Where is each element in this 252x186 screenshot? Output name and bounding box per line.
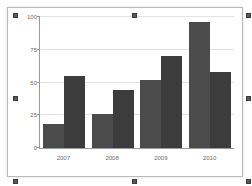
selection-handle-bottom-center[interactable] (132, 179, 137, 184)
selection-handle-top-right[interactable] (246, 13, 251, 18)
chart-plot-area: 0255075100 (39, 17, 234, 149)
bar-group (186, 17, 235, 148)
selection-handle-middle-right[interactable] (246, 96, 251, 101)
chart-object[interactable]: 0255075100 2007200820092010 (7, 7, 243, 177)
bar-2007-series1[interactable] (43, 124, 64, 148)
selection-handle-bottom-right[interactable] (246, 179, 251, 184)
bar-2008-series1[interactable] (92, 114, 113, 148)
bar-2007-series2[interactable] (64, 76, 85, 148)
y-axis-tick-label: 50 (30, 80, 37, 86)
y-axis-tick-label: 25 (30, 112, 37, 118)
bar-2008-series2[interactable] (113, 90, 134, 148)
screenshot-canvas: 0255075100 2007200820092010 (0, 0, 252, 186)
y-axis-tick-label: 0 (34, 145, 37, 151)
bar-2009-series1[interactable] (140, 80, 161, 148)
chart-bars (40, 17, 234, 148)
x-axis-label-2009: 2009 (137, 152, 186, 164)
y-axis-tick-label: 100 (27, 14, 37, 20)
selection-handle-top-left[interactable] (13, 13, 18, 18)
bar-group (40, 17, 89, 148)
bar-2010-series1[interactable] (189, 22, 210, 148)
x-axis-label-2007: 2007 (39, 152, 88, 164)
bar-group (89, 17, 138, 148)
bar-group (137, 17, 186, 148)
selection-handle-top-center[interactable] (132, 13, 137, 18)
chart-x-axis-labels: 2007200820092010 (39, 152, 234, 164)
bar-2009-series2[interactable] (161, 56, 182, 148)
bar-2010-series2[interactable] (210, 72, 231, 148)
x-axis-label-2008: 2008 (88, 152, 137, 164)
x-axis-label-2010: 2010 (185, 152, 234, 164)
y-axis-tick-label: 75 (30, 47, 37, 53)
chart-plot-wrapper: 0255075100 2007200820092010 (8, 8, 242, 176)
selection-handle-middle-left[interactable] (13, 96, 18, 101)
selection-handle-bottom-left[interactable] (13, 179, 18, 184)
